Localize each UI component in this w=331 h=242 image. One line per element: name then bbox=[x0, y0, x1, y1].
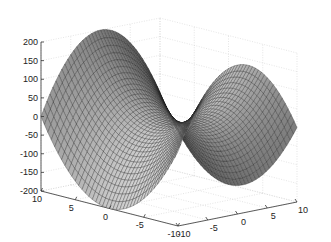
right-axis-tick-label: 5 bbox=[271, 211, 276, 221]
right-axis-tick bbox=[236, 211, 238, 214]
left-axis-tick-label: 0 bbox=[103, 212, 108, 222]
z-tick-label: -100 bbox=[20, 149, 38, 159]
z-tick-label: -150 bbox=[20, 167, 38, 177]
z-tick-label: 100 bbox=[23, 74, 38, 84]
right-axis-tick-label: -10 bbox=[177, 229, 190, 239]
z-tick-label: 50 bbox=[28, 93, 38, 103]
left-axis-tick-label: 10 bbox=[32, 194, 42, 204]
wall-gridline bbox=[160, 18, 297, 53]
right-axis-tick-label: -5 bbox=[210, 223, 218, 233]
left-axis-tick-label: 5 bbox=[69, 203, 74, 213]
z-tick-label: 0 bbox=[33, 112, 38, 122]
surface-plot: 200150100500-50-100-150-2001050-5-10-10-… bbox=[0, 0, 331, 242]
right-axis-tick-label: 0 bbox=[241, 217, 246, 227]
right-axis-tick bbox=[206, 217, 208, 220]
right-axis-tick-label: 10 bbox=[298, 205, 308, 215]
z-tick-label: 200 bbox=[23, 37, 38, 47]
z-tick-label: -50 bbox=[25, 130, 38, 140]
surface-layer bbox=[41, 30, 297, 210]
right-axis-tick bbox=[265, 205, 267, 208]
left-axis-tick-label: -5 bbox=[136, 220, 144, 230]
z-tick-label: 150 bbox=[23, 56, 38, 66]
